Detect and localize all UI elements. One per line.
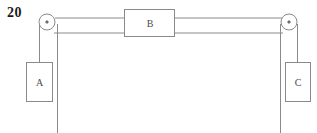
block-b-label: B — [147, 18, 154, 29]
block-c: C — [286, 63, 311, 102]
right-pulley-hub-icon — [288, 21, 291, 24]
block-a-label: A — [36, 77, 44, 88]
block-c-label: C — [295, 77, 302, 88]
figure-canvas: 20 B A — [0, 0, 317, 133]
pulley-diagram: B A C — [0, 0, 317, 133]
block-b: B — [125, 10, 175, 37]
block-a: A — [27, 63, 53, 102]
left-pulley — [39, 14, 55, 30]
left-pulley-hub-icon — [46, 21, 49, 24]
right-pulley — [281, 14, 297, 30]
